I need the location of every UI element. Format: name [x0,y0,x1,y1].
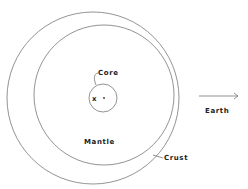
marker-x-label: x [92,95,97,103]
arrow-icon [199,93,238,99]
earth-label: Earth [205,107,229,115]
core-label: Core [98,69,119,77]
earth-structure-diagram: x Core Mantle Crust Earth [0,0,248,189]
mantle-label: Mantle [84,138,115,146]
crust-label: Crust [164,154,188,162]
center-dot [103,97,105,99]
